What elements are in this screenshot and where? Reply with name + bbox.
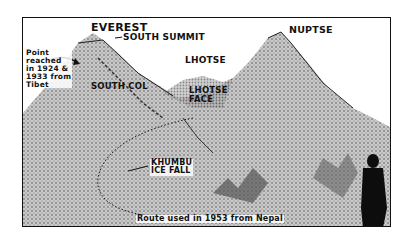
label-nuptse: NUPTSE	[289, 25, 333, 35]
mountain-scene-illustration	[23, 18, 391, 227]
label-point-reached: Point reached in 1924 & 1933 from Tibet	[25, 49, 72, 88]
illustration-frame: EVEREST SOUTH SUMMIT NUPTSE LHOTSE Point…	[22, 17, 391, 227]
label-route-1953: Route used in 1953 from Nepal	[136, 215, 284, 223]
label-south-summit: SOUTH SUMMIT	[122, 33, 206, 42]
label-lhotse-face: LHOTSE FACE	[189, 86, 228, 104]
label-khumbu-ice-fall: KHUMBU ICE FALL	[150, 159, 193, 176]
label-lhotse: LHOTSE	[185, 56, 226, 65]
label-south-col: SOUTH COL	[91, 82, 148, 91]
